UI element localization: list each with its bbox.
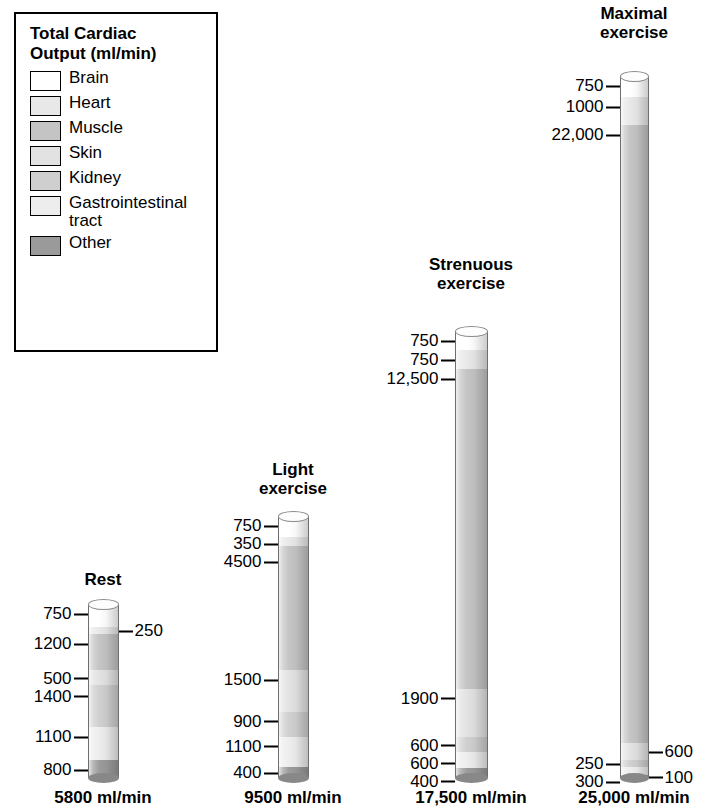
segment-shading [89,670,118,685]
segment-value-label: 22,000 [552,126,604,143]
cylinder-body [278,516,309,778]
tick-dash [74,769,88,771]
tick-dash [441,763,455,765]
tick-dash [119,630,133,632]
segment-shading [456,369,487,688]
cylinder-top-cap [278,511,309,522]
tick-dash [74,643,88,645]
segment-shading [456,350,487,369]
column-title: Light exercise [213,460,373,498]
segment-shading [621,97,648,125]
segment-shading [621,125,648,743]
cylinder [88,604,119,778]
tick-dash [74,613,88,615]
column-strenuous-exercise: Strenuous exercise17,500 ml/min75075012,… [391,0,551,808]
tick-dash [74,678,88,680]
cylinder-bottom-cap [278,773,309,783]
tick-dash [264,772,278,774]
segment-value-label: 250 [135,622,163,639]
segment-kidney [456,737,487,752]
segment-heart [89,627,118,635]
segment-shading [456,737,487,752]
segment-shading [279,670,308,711]
tick-dash [441,745,455,747]
segment-value-label: 1100 [35,728,72,745]
tick-dash [441,781,455,783]
segment-shading [89,685,118,727]
column-title: Maximal exercise [554,4,710,42]
segment-shading [456,752,487,767]
column-title: Rest [23,570,183,589]
segment-value-label: 1500 [224,671,262,688]
segment-value-label: 800 [43,761,71,778]
segment-value-label: 750 [575,77,603,94]
segment-value-label: 750 [43,605,71,622]
segment-value-label: 1900 [401,689,439,706]
segment-skin [621,743,648,760]
tick-dash [606,85,620,87]
segment-kidney [621,760,648,767]
segment-shading [89,627,118,635]
tick-dash [441,340,455,342]
tick-dash [264,679,278,681]
tick-dash [264,543,278,545]
segment-heart [279,537,308,547]
segment-muscle [89,634,118,670]
segment-kidney [279,712,308,737]
column-total-label: 5800 ml/min [54,788,151,808]
segment-shading [279,537,308,547]
segment-muscle [279,546,308,670]
column-total-label: 25,000 ml/min [578,788,690,808]
segment-value-label: 750 [410,351,438,368]
tick-dash [264,525,278,527]
column-maximal-exercise: Maximal exercise25,000 ml/min750100022,0… [554,0,710,808]
segment-gastrointestinal-tract [279,737,308,767]
segment-skin [456,689,487,738]
cylinder-bottom-cap [88,773,119,783]
tick-dash [264,746,278,748]
segment-value-label: 1000 [566,98,604,115]
column-title: Strenuous exercise [391,255,551,293]
segment-muscle [621,125,648,743]
segment-shading [279,737,308,767]
segment-skin [279,670,308,711]
cylinder-body [620,76,649,778]
segment-value-label: 600 [665,743,693,760]
segment-value-label: 400 [233,764,261,781]
segment-heart [621,97,648,125]
segment-value-label: 350 [233,535,261,552]
tick-dash [74,736,88,738]
segment-kidney [89,685,118,727]
segment-shading [89,634,118,670]
tick-dash [606,781,620,783]
column-total-label: 9500 ml/min [244,788,341,808]
segment-value-label: 250 [575,755,603,772]
segment-value-label: 1400 [34,687,72,704]
cylinder-top-cap [455,326,488,337]
segment-value-label: 400 [410,772,438,789]
tick-dash [441,359,455,361]
segment-shading [621,760,648,767]
segment-muscle [456,369,487,688]
column-light-exercise: Light exercise9500 ml/min750350450015009… [213,0,373,808]
segment-value-label: 12,500 [387,370,439,387]
segment-shading [279,546,308,670]
segment-value-label: 300 [575,773,603,790]
tick-dash [264,721,278,723]
segment-value-label: 1200 [34,635,72,652]
cylinder [278,516,309,778]
tick-dash [606,763,620,765]
cylinder-body [455,331,488,778]
cylinder-bottom-cap [620,773,649,783]
segment-shading [456,689,487,738]
segment-gastrointestinal-tract [456,752,487,767]
tick-dash [649,777,663,779]
segment-value-label: 500 [43,669,71,686]
column-rest: Rest5800 ml/min750250120050014001100800 [23,0,183,808]
segment-gastrointestinal-tract [89,727,118,760]
segment-value-label: 600 [410,736,438,753]
cylinder [455,331,488,778]
tick-dash [264,561,278,563]
tick-dash [441,378,455,380]
segment-value-label: 900 [233,712,261,729]
